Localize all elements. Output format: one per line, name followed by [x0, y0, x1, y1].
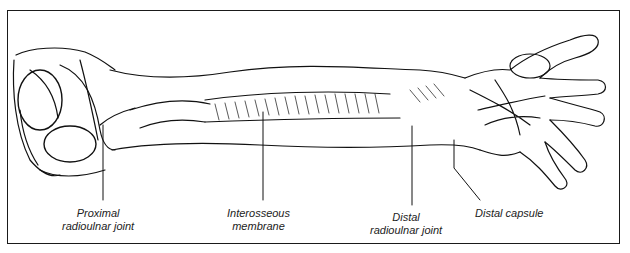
- label-interosseous-membrane: Interosseous membrane: [227, 207, 290, 233]
- label-distal-capsule: Distal capsule: [475, 207, 543, 220]
- label-distal-radioulnar-joint: Distal radioulnar joint: [370, 211, 442, 237]
- hand-drawing: [465, 35, 606, 189]
- forearm-bones-drawing: [110, 66, 480, 150]
- interosseous-membrane-hatching: [215, 84, 444, 120]
- leader-lines: [103, 112, 480, 205]
- elbow-joint-drawing: [13, 48, 135, 176]
- label-proximal-radioulnar-joint: Proximal radioulnar joint: [62, 207, 134, 233]
